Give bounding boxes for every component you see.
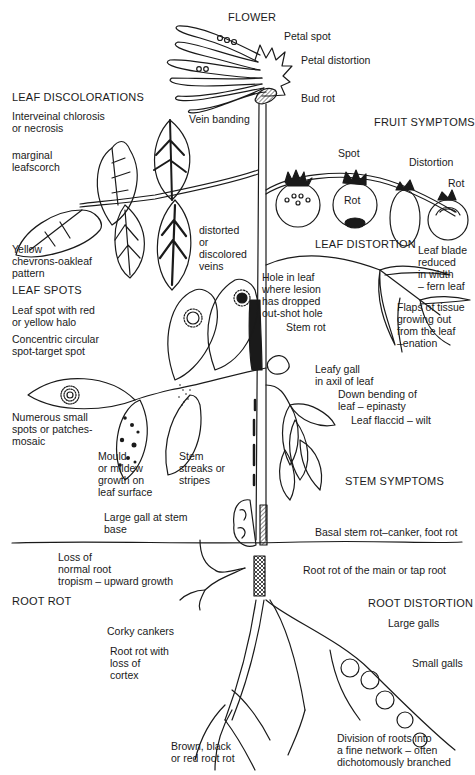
label-yellow-chevrons: Yellow chevrons-oakleaf pattern: [12, 243, 92, 279]
label-distorted-veins: distorted or discolored veins: [199, 224, 247, 272]
label-root-rot-cortex: Root rot with loss of cortex: [110, 645, 169, 681]
label-fine-network: Division of roots into a fine network – …: [337, 732, 451, 768]
label-large-galls: Large galls: [388, 617, 439, 629]
label-leaf-spot-halo: Leaf spot with red or yellow halo: [12, 304, 95, 328]
label-fruit-distortion: Distortion: [409, 156, 453, 168]
label-mosaic: Numerous small spots or patches- mosaic: [12, 411, 93, 447]
label-petal-spot: Petal spot: [284, 30, 331, 42]
label-corky-cankers: Corky cankers: [107, 625, 174, 637]
fruit-branch: [266, 170, 468, 246]
label-enation: Flaps of tissue growing out from the lea…: [397, 301, 465, 349]
label-leafy-gall: Leafy gall in axil of leaf: [315, 363, 373, 387]
plant-disease-diagram: FLOWER LEAF DISCOLORATIONS FRUIT SYMPTOM…: [0, 0, 475, 775]
label-marginal-leafscorch: marginal leafscorch: [12, 149, 60, 173]
label-large-gall-stem: Large gall at stem base: [104, 511, 187, 535]
label-brown-root-rot: Brown, black or red root rot: [171, 740, 235, 764]
section-root-distortion: ROOT DISTORTION: [368, 597, 473, 609]
stem-base-gall: [234, 500, 256, 547]
label-wilt: Leaf flaccid – wilt: [351, 414, 431, 426]
section-root-rot: ROOT ROT: [12, 595, 71, 607]
flower: [167, 26, 292, 113]
label-epinasty: Down bending of leaf – epinasty: [338, 388, 417, 412]
label-stem-rot: Stem rot: [286, 321, 326, 333]
label-loss-tropism: Loss of normal root tropism – upward gro…: [58, 551, 173, 587]
label-stem-streaks: Stem streaks or stripes: [179, 450, 225, 486]
label-concentric-spot: Concentric circular spot-target spot: [12, 333, 99, 357]
label-fruit-rot-2: Rot: [448, 177, 464, 189]
label-shot-hole: Hole in leaf where lesion has dropped ou…: [262, 271, 323, 319]
section-flower: FLOWER: [228, 11, 276, 23]
ground-line: [12, 541, 462, 543]
label-tap-root-rot: Root rot of the main or tap root: [303, 564, 446, 576]
label-basal-stem-rot: Basal stem rot–canker, foot rot: [315, 526, 457, 538]
section-leaf-distortion: LEAF DISTORTION: [315, 238, 416, 250]
label-fruit-rot: Rot: [344, 194, 360, 206]
main-stem: [249, 104, 267, 596]
section-fruit-symptoms: FRUIT SYMPTOMS: [374, 116, 475, 128]
section-stem-symptoms: STEM SYMPTOMS: [345, 475, 444, 487]
label-mould-mildew: Mould or mildew growth on leaf surface: [98, 450, 152, 498]
label-interveinal-chlorosis: Interveinal chlorosis or necrosis: [12, 110, 105, 134]
label-bud-rot: Bud rot: [301, 92, 335, 104]
section-leaf-spots: LEAF SPOTS: [12, 284, 82, 296]
label-small-galls: Small galls: [412, 657, 463, 669]
label-fruit-spot: Spot: [338, 147, 360, 159]
section-leaf-discolorations: LEAF DISCOLORATIONS: [12, 91, 144, 103]
label-leaf-blade-reduced: Leaf blade reduced in width – fern leaf: [418, 244, 467, 292]
label-petal-distortion: Petal distortion: [301, 54, 370, 66]
label-vein-banding: Vein banding: [189, 113, 250, 125]
